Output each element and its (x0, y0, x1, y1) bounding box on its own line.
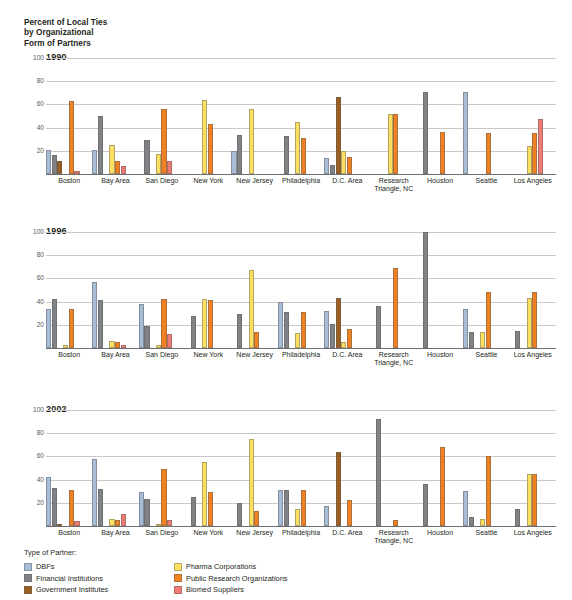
bar (423, 484, 428, 526)
bar-group-inner (185, 410, 231, 526)
bar-group: Los Angeles (510, 58, 556, 174)
bar (440, 447, 445, 526)
legend-item: Biomed Suppliers (174, 584, 324, 596)
bar-stack (510, 410, 544, 526)
bar-group: Philadelphia (278, 232, 324, 348)
y-axis-tick-20: 20 (4, 321, 44, 328)
bar (278, 302, 283, 348)
legend-item: Government Institutes (24, 584, 174, 596)
bar-stack (278, 410, 312, 526)
bar (57, 161, 62, 174)
bar (156, 345, 161, 348)
bar (515, 331, 520, 348)
bar-group-inner (278, 410, 324, 526)
bar-group: San Diego (139, 232, 185, 348)
x-axis-line (46, 526, 556, 527)
bar-stack (185, 58, 219, 174)
bar (336, 97, 341, 174)
bar (301, 138, 306, 174)
y-axis-tick-60: 60 (4, 452, 44, 459)
bar-group: Boston (46, 410, 92, 526)
bar (237, 503, 242, 526)
category-label-line: Boston (58, 177, 80, 184)
bar (92, 150, 97, 174)
bar-group-inner (510, 232, 556, 348)
y-axis-tick-40: 40 (4, 298, 44, 305)
bar (341, 151, 346, 174)
bar-group-inner (185, 232, 231, 348)
bar (423, 232, 428, 348)
bar-group-inner (371, 232, 417, 348)
bar-group-inner (417, 232, 463, 348)
category-label: Los Angeles (498, 351, 568, 359)
bar-group-inner (185, 58, 231, 174)
bar (527, 298, 532, 348)
bar (532, 292, 537, 348)
x-axis-line (46, 174, 556, 175)
legend-label: Biomed Suppliers (186, 585, 244, 594)
bar (202, 462, 207, 526)
bar (347, 329, 352, 348)
chart-page: Percent of Local Ties by Organizational … (0, 0, 572, 600)
legend-swatch-icon (24, 574, 32, 582)
bar-stack (92, 58, 126, 174)
bar-group: Seattle (463, 410, 509, 526)
bar (144, 326, 149, 348)
bar-group-inner (278, 232, 324, 348)
legend-item: Financial Institutions (24, 573, 174, 585)
bar-stack (46, 58, 80, 174)
bar (231, 151, 236, 174)
bar (480, 519, 485, 526)
bar (191, 497, 196, 526)
bar-group-inner (46, 58, 92, 174)
bar (393, 268, 398, 348)
y-axis-tick-40: 40 (4, 124, 44, 131)
bar (98, 489, 103, 526)
category-label-line: Triangle, NC (359, 359, 429, 367)
bar (295, 122, 300, 174)
bar (202, 299, 207, 348)
bar-stack (324, 410, 358, 526)
bar-group: Houston (417, 232, 463, 348)
bar (532, 133, 537, 174)
category-label-line: Boston (58, 351, 80, 358)
legend-swatch-icon (174, 574, 182, 582)
y-axis-tick-80: 80 (4, 429, 44, 436)
bar (208, 300, 213, 348)
bar (393, 114, 398, 174)
bar-group-inner (92, 232, 138, 348)
bar-stack (463, 232, 497, 348)
bar (486, 292, 491, 348)
bar-stack (417, 58, 451, 174)
category-label-line: Los Angeles (514, 351, 552, 358)
bar (63, 345, 68, 348)
plot-area: 20406080100BostonBay AreaSan DiegoNew Yo… (46, 232, 556, 348)
bar-group-inner (278, 58, 324, 174)
bar-group: Bay Area (92, 58, 138, 174)
bar-group: San Diego (139, 58, 185, 174)
y-axis-tick-20: 20 (4, 147, 44, 154)
bar (527, 146, 532, 174)
bar-stack (231, 58, 265, 174)
category-label-line: Bay Area (101, 177, 129, 184)
category-label-line: Triangle, NC (359, 185, 429, 193)
bar-group-inner (463, 58, 509, 174)
bar (301, 490, 306, 526)
bar-stack (185, 232, 219, 348)
bar-group: New York (185, 410, 231, 526)
bar-stack (463, 410, 497, 526)
category-label-line: Seattle (476, 529, 498, 536)
bar (208, 124, 213, 174)
bar (237, 314, 242, 348)
bar-group-inner (139, 232, 185, 348)
bar-stack (417, 410, 451, 526)
bar (463, 491, 468, 526)
bar-group-inner (92, 58, 138, 174)
bar (440, 132, 445, 174)
bar-stack (278, 232, 312, 348)
bar (167, 334, 172, 348)
bar-stack (463, 58, 497, 174)
bar-group-inner (371, 410, 417, 526)
bar-group-inner (46, 232, 92, 348)
bar-group-inner (324, 410, 370, 526)
